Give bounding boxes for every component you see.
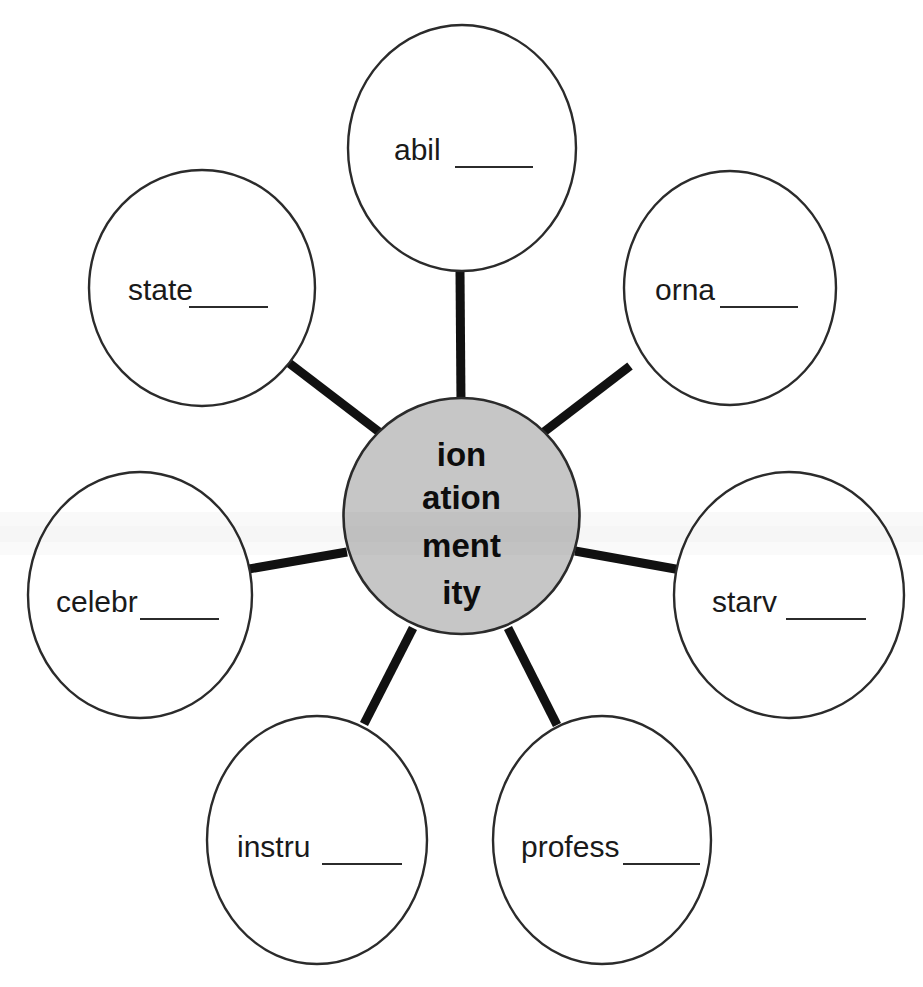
spoke-to-starv (575, 551, 681, 570)
bubble-state[interactable] (89, 170, 315, 406)
spoke-to-state (289, 363, 387, 438)
bubble-abil-group: abil (348, 25, 576, 271)
bubble-celebr-group: celebr (28, 472, 252, 718)
bubble-starv-group: starv (674, 472, 904, 718)
center-suffix-group: ion ation ment ity (344, 398, 580, 634)
spoke-to-celebr (243, 552, 347, 570)
center-suffix-line-1: ion (437, 436, 486, 473)
spoke-to-abil (460, 272, 461, 404)
bubble-orna-stem: orna (655, 273, 715, 306)
bubble-celebr-stem: celebr (56, 585, 138, 618)
center-suffix-line-2: ation (422, 479, 501, 516)
spoke-to-instru (364, 628, 413, 724)
suffix-word-web-worksheet: abilornastarvprofessinstrucelebrstate io… (0, 0, 923, 987)
center-suffix-line-3: ment (422, 527, 501, 564)
center-suffix-line-4: ity (442, 574, 481, 611)
bubble-state-group: state (89, 170, 315, 406)
bubble-starv[interactable] (674, 472, 904, 718)
spoke-to-profess (508, 628, 557, 725)
spoke-to-orna (536, 366, 630, 438)
bubble-state-stem: state (128, 273, 193, 306)
bubble-abil[interactable] (348, 25, 576, 271)
bubble-instru-group: instru (207, 716, 427, 964)
bubble-orna-group: orna (624, 171, 836, 405)
bubble-profess-stem: profess (521, 830, 619, 863)
bubble-abil-stem: abil (394, 133, 441, 166)
word-web-diagram: abilornastarvprofessinstrucelebrstate io… (0, 0, 923, 987)
bubble-instru-stem: instru (237, 830, 310, 863)
bubble-starv-stem: starv (712, 585, 777, 618)
bubble-profess-group: profess (493, 716, 711, 964)
